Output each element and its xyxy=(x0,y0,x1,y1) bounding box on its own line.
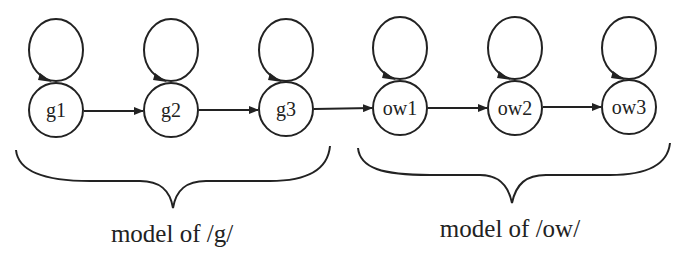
state-node-g1: g1 xyxy=(29,83,83,137)
self-loop-g2 xyxy=(144,19,198,82)
state-node-ow3: ow3 xyxy=(602,80,656,134)
state-node-ow2: ow2 xyxy=(488,81,542,135)
edge-g3-ow1 xyxy=(314,108,372,109)
self-loop-g3 xyxy=(259,19,313,82)
node-label: g2 xyxy=(161,99,181,122)
self-loop-ow1 xyxy=(373,17,427,80)
group-label-g: model of /g/ xyxy=(111,220,233,247)
self-loop-ow2 xyxy=(488,17,542,80)
state-node-g2: g2 xyxy=(144,83,198,137)
node-label: g1 xyxy=(46,99,66,122)
hmm-diagram: g1 g2 g3 ow1 ow2 ow3 model of /g/ model … xyxy=(0,0,688,266)
node-label: ow1 xyxy=(383,97,417,119)
self-loop-ow3 xyxy=(602,17,656,80)
self-loops xyxy=(29,17,656,82)
state-node-ow1: ow1 xyxy=(373,81,427,135)
self-loop-g1 xyxy=(29,19,83,82)
brace-g-model xyxy=(16,146,330,208)
node-label: g3 xyxy=(276,98,296,121)
state-node-g3: g3 xyxy=(259,82,313,136)
brace-ow-model xyxy=(358,143,670,203)
node-label: ow3 xyxy=(612,96,646,118)
group-label-ow: model of /ow/ xyxy=(440,215,580,242)
node-label: ow2 xyxy=(498,97,532,119)
group-braces xyxy=(16,143,670,208)
